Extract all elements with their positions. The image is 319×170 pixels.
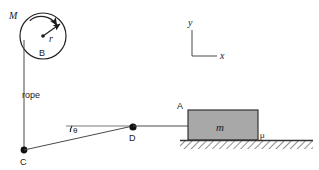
point-a-label: A	[177, 101, 183, 111]
diagram-canvas: M r B rope C θ D m A μ	[0, 0, 319, 170]
pulley-name-label: B	[39, 48, 45, 58]
angle-label: θ	[73, 126, 78, 135]
ground-group	[180, 141, 313, 150]
axis-y-label: y	[187, 17, 193, 28]
rotation-arrow-icon	[29, 14, 56, 28]
block-mass-label: m	[216, 121, 224, 133]
rope-inclined-segment	[24, 126, 133, 150]
friction-coefficient-label: μ	[260, 131, 265, 140]
rope-label: rope	[22, 90, 40, 100]
point-d-label: D	[129, 133, 136, 143]
physics-diagram: M r B rope C θ D m A μ	[0, 0, 319, 170]
pulley-radius-label: r	[49, 33, 53, 44]
coordinate-axes	[192, 30, 217, 56]
angle-arc	[70, 126, 72, 132]
point-d-dot	[129, 123, 136, 130]
axis-x-label: x	[219, 50, 225, 61]
pulley-mass-label: M	[8, 10, 18, 21]
point-c-label: C	[20, 157, 27, 167]
ground-hatching	[180, 141, 313, 149]
